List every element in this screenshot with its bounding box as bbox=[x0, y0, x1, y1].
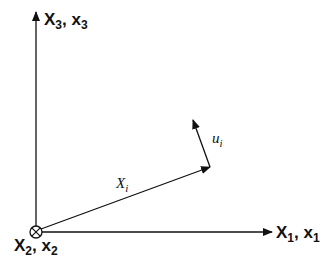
x1-axis-label: X1, x1 bbox=[276, 223, 320, 245]
displacement-vector-label: ui bbox=[212, 130, 223, 149]
x3-axis-label: X3, x3 bbox=[44, 10, 88, 32]
position-vector-arrow bbox=[41, 167, 210, 229]
displacement-vector-arrow bbox=[193, 120, 210, 167]
position-vector-label: Xi bbox=[115, 175, 128, 194]
coordinate-diagram: X3, x3 X1, x1 X2, x2 Xi ui bbox=[0, 0, 321, 264]
x2-axis-label: X2, x2 bbox=[14, 236, 58, 258]
